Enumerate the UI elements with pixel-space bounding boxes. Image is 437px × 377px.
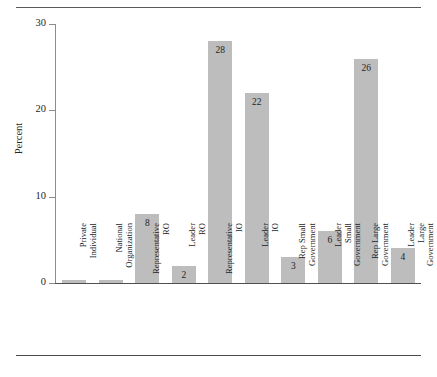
y-tick-mark	[49, 283, 55, 284]
y-tick-mark	[49, 24, 55, 25]
x-tick-label: LeaderRO	[188, 223, 207, 287]
bar-value-label: 22	[245, 97, 269, 107]
x-tick-label: Rep SmallGovernment	[298, 223, 317, 287]
bottom-rule	[16, 355, 421, 356]
y-tick-mark	[49, 197, 55, 198]
x-tick-label: RepresentativeRO	[152, 223, 171, 287]
figure: Percent 0102030 82282236264 PrivateIndiv…	[0, 0, 437, 377]
x-tick-label: LeaderSmallGovernment	[334, 223, 363, 287]
y-tick: 0	[0, 283, 56, 284]
y-tick-label: 10	[16, 191, 46, 201]
y-tick-label: 20	[16, 104, 46, 114]
x-tick-label: NationalOrganization	[115, 223, 134, 287]
y-tick-mark	[49, 110, 55, 111]
y-tick-label: 0	[16, 277, 46, 287]
bar-value-label: 26	[354, 63, 378, 73]
x-tick-label: PrivateIndividual	[79, 223, 98, 287]
y-tick-label: 30	[16, 18, 46, 28]
y-axis-title: Percent	[13, 109, 24, 169]
x-tick-label: RepresentativeIO	[225, 223, 244, 287]
y-tick: 30	[0, 24, 56, 25]
bar-value-label: 28	[208, 45, 232, 55]
y-tick: 20	[0, 110, 56, 111]
y-tick: 10	[0, 197, 56, 198]
x-tick-label: Rep LargeGovernment	[371, 223, 390, 287]
x-tick-label: LeaderLargeGovernment	[407, 223, 436, 287]
top-rule	[16, 7, 421, 8]
x-tick-label: LeaderIO	[261, 223, 280, 287]
